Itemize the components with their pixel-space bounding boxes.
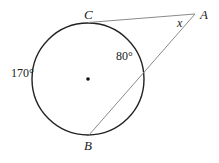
geometry-diagram: C A B x 80° 170°	[0, 0, 219, 163]
center-point	[86, 77, 90, 81]
label-arc-170: 170°	[11, 66, 34, 80]
label-angle-x: x	[176, 16, 183, 30]
secant-segment-ba	[89, 14, 195, 135]
label-point-a: A	[199, 7, 208, 22]
label-point-b: B	[84, 138, 92, 153]
label-point-c: C	[84, 7, 93, 22]
label-arc-80: 80°	[116, 49, 133, 63]
